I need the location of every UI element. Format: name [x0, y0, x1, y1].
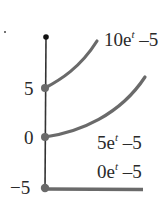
curve-10et-minus-5 [45, 41, 97, 88]
y-tick-neg5: −5 [10, 177, 30, 198]
label-5et-minus-5: 5et –5 [97, 131, 142, 153]
solution-curves-diagram: 5 0 −5 10et –5 5et –5 0et –5 [0, 0, 168, 205]
initial-point-0 [41, 133, 49, 141]
y-axis [45, 37, 46, 190]
stray-dot [4, 31, 6, 33]
y-tick-5: 5 [24, 78, 34, 99]
label-10et-minus-5: 10et –5 [104, 28, 158, 50]
curve-5et-minus-5 [45, 77, 145, 137]
label-0et-minus-5: 0et –5 [97, 160, 142, 182]
initial-point-5 [41, 84, 49, 92]
y-axis-top-dot [43, 34, 49, 40]
y-tick-0: 0 [24, 127, 34, 148]
curve-0et-minus-5 [45, 189, 143, 190]
initial-point-neg5 [41, 184, 49, 192]
